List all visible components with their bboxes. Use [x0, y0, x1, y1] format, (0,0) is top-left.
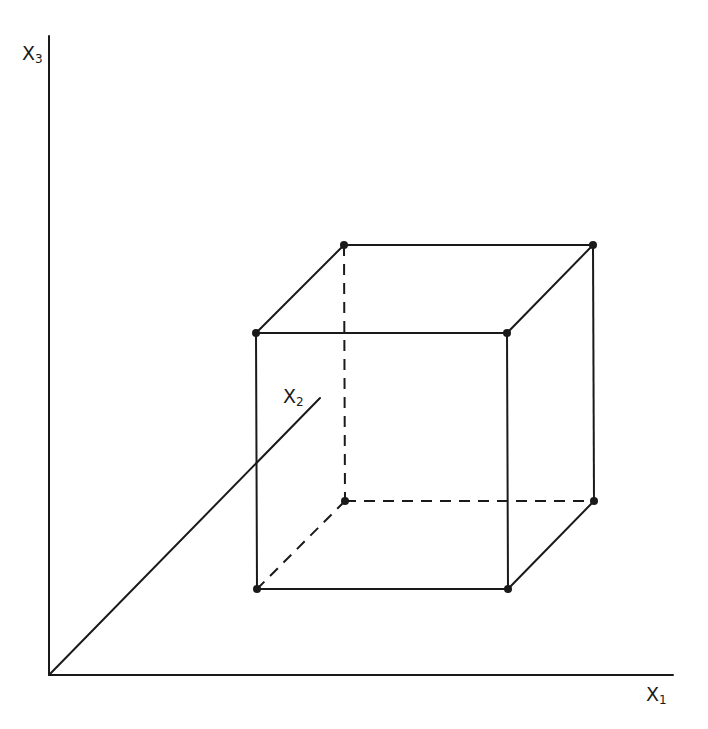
cube-hidden-edge-back-left: [344, 245, 345, 501]
cube-edge-top-left-diagonal: [256, 245, 344, 333]
x3-label-text: X: [22, 42, 35, 64]
vertex-back-bottom-left: [341, 497, 349, 505]
x1-label-text: X: [646, 683, 659, 705]
cube-diagram: [0, 0, 708, 729]
cube-hidden-edge-bottom-left-diagonal: [257, 501, 345, 589]
x3-label-subscript: 3: [35, 52, 43, 66]
vertex-front-bottom-right: [504, 585, 512, 593]
x2-axis-label: X2: [283, 387, 304, 406]
cube-edge-back-right: [593, 245, 594, 501]
x2-label-text: X: [283, 385, 296, 407]
cube-front-face: [256, 333, 508, 589]
vertex-front-top-left: [252, 329, 260, 337]
vertex-back-bottom-right: [590, 497, 598, 505]
cube-edge-top-right-diagonal: [507, 245, 593, 333]
vertex-back-top-left: [340, 241, 348, 249]
x3-axis-label: X3: [22, 44, 43, 63]
x2-label-subscript: 2: [296, 395, 304, 409]
x1-axis-label: X1: [646, 685, 667, 704]
vertex-front-bottom-left: [253, 585, 261, 593]
vertex-front-top-right: [503, 329, 511, 337]
x2-axis: [49, 398, 320, 675]
x1-label-subscript: 1: [659, 693, 667, 707]
cube-edge-bottom-right-diagonal: [508, 501, 594, 589]
vertex-back-top-right: [589, 241, 597, 249]
